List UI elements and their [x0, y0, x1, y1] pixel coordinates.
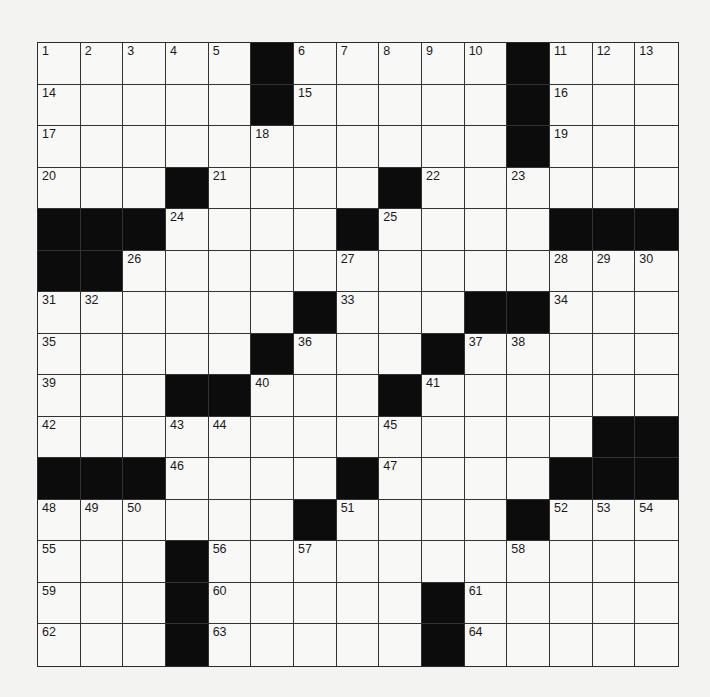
grid-cell-r0-c6[interactable]: 6	[294, 43, 337, 85]
cell-entry[interactable]	[294, 541, 336, 582]
cell-entry[interactable]	[507, 417, 549, 458]
grid-cell-r14-c11[interactable]	[507, 624, 550, 666]
grid-cell-r6-c14[interactable]	[635, 292, 678, 334]
cell-entry[interactable]	[337, 417, 379, 458]
cell-entry[interactable]	[635, 334, 678, 375]
grid-cell-r6-c0[interactable]: 31	[38, 292, 81, 334]
cell-entry[interactable]	[337, 126, 379, 167]
cell-entry[interactable]	[251, 583, 293, 624]
grid-cell-r0-c7[interactable]: 7	[337, 43, 380, 85]
grid-cell-r1-c8[interactable]	[379, 85, 422, 127]
grid-cell-r9-c2[interactable]	[123, 417, 166, 459]
cell-entry[interactable]	[465, 500, 507, 541]
cell-entry[interactable]	[123, 624, 165, 666]
cell-entry[interactable]	[635, 541, 678, 582]
grid-cell-r2-c13[interactable]	[593, 126, 636, 168]
grid-cell-r14-c6[interactable]	[294, 624, 337, 666]
grid-cell-r4-c8[interactable]: 25	[379, 209, 422, 251]
grid-cell-r1-c3[interactable]	[166, 85, 209, 127]
cell-entry[interactable]	[166, 126, 208, 167]
cell-entry[interactable]	[209, 251, 251, 292]
cell-entry[interactable]	[38, 500, 80, 541]
cell-entry[interactable]	[337, 541, 379, 582]
grid-cell-r4-c10[interactable]	[465, 209, 508, 251]
cell-entry[interactable]	[550, 168, 592, 209]
cell-entry[interactable]	[294, 583, 336, 624]
cell-entry[interactable]	[593, 375, 635, 416]
cell-entry[interactable]	[507, 334, 549, 375]
cell-entry[interactable]	[465, 583, 507, 624]
grid-cell-r3-c1[interactable]	[81, 168, 124, 210]
grid-cell-r7-c2[interactable]	[123, 334, 166, 376]
cell-entry[interactable]	[251, 458, 293, 499]
grid-cell-r3-c5[interactable]	[251, 168, 294, 210]
grid-cell-r0-c3[interactable]: 4	[166, 43, 209, 85]
grid-cell-r9-c8[interactable]: 45	[379, 417, 422, 459]
grid-cell-r11-c10[interactable]	[465, 500, 508, 542]
grid-cell-r5-c13[interactable]: 29	[593, 251, 636, 293]
cell-entry[interactable]	[422, 292, 464, 333]
cell-entry[interactable]	[123, 500, 165, 541]
grid-cell-r9-c12[interactable]	[550, 417, 593, 459]
grid-cell-r13-c7[interactable]	[337, 583, 380, 625]
grid-cell-r7-c10[interactable]: 37	[465, 334, 508, 376]
cell-entry[interactable]	[507, 541, 549, 582]
grid-cell-r3-c11[interactable]: 23	[507, 168, 550, 210]
grid-cell-r6-c4[interactable]	[209, 292, 252, 334]
cell-entry[interactable]	[465, 85, 507, 126]
cell-entry[interactable]	[38, 583, 80, 624]
cell-entry[interactable]	[38, 334, 80, 375]
cell-entry[interactable]	[507, 375, 549, 416]
grid-cell-r1-c0[interactable]: 14	[38, 85, 81, 127]
grid-cell-r5-c3[interactable]	[166, 251, 209, 293]
grid-cell-r13-c10[interactable]: 61	[465, 583, 508, 625]
cell-entry[interactable]	[209, 126, 251, 167]
grid-cell-r12-c11[interactable]: 58	[507, 541, 550, 583]
grid-cell-r2-c9[interactable]	[422, 126, 465, 168]
grid-cell-r10-c4[interactable]	[209, 458, 252, 500]
cell-entry[interactable]	[422, 375, 464, 416]
grid-cell-r12-c0[interactable]: 55	[38, 541, 81, 583]
grid-cell-r6-c3[interactable]	[166, 292, 209, 334]
grid-cell-r1-c13[interactable]	[593, 85, 636, 127]
grid-cell-r12-c13[interactable]	[593, 541, 636, 583]
grid-cell-r11-c14[interactable]: 54	[635, 500, 678, 542]
grid-cell-r12-c8[interactable]	[379, 541, 422, 583]
cell-entry[interactable]	[422, 43, 464, 84]
cell-entry[interactable]	[337, 292, 379, 333]
grid-cell-r6-c13[interactable]	[593, 292, 636, 334]
cell-entry[interactable]	[465, 251, 507, 292]
cell-entry[interactable]	[251, 126, 293, 167]
grid-cell-r7-c12[interactable]	[550, 334, 593, 376]
grid-cell-r0-c8[interactable]: 8	[379, 43, 422, 85]
grid-cell-r13-c5[interactable]	[251, 583, 294, 625]
cell-entry[interactable]	[422, 500, 464, 541]
grid-cell-r12-c4[interactable]: 56	[209, 541, 252, 583]
grid-cell-r1-c7[interactable]	[337, 85, 380, 127]
grid-cell-r14-c2[interactable]	[123, 624, 166, 666]
grid-cell-r5-c11[interactable]	[507, 251, 550, 293]
cell-entry[interactable]	[294, 43, 336, 84]
grid-cell-r11-c0[interactable]: 48	[38, 500, 81, 542]
grid-cell-r14-c1[interactable]	[81, 624, 124, 666]
grid-cell-r10-c6[interactable]	[294, 458, 337, 500]
cell-entry[interactable]	[422, 85, 464, 126]
cell-entry[interactable]	[123, 43, 165, 84]
grid-cell-r9-c3[interactable]: 43	[166, 417, 209, 459]
cell-entry[interactable]	[251, 541, 293, 582]
grid-cell-r3-c7[interactable]	[337, 168, 380, 210]
cell-entry[interactable]	[379, 500, 421, 541]
cell-entry[interactable]	[81, 168, 123, 209]
cell-entry[interactable]	[465, 624, 507, 666]
cell-entry[interactable]	[593, 583, 635, 624]
grid-cell-r6-c12[interactable]: 34	[550, 292, 593, 334]
grid-cell-r5-c4[interactable]	[209, 251, 252, 293]
grid-cell-r5-c9[interactable]	[422, 251, 465, 293]
cell-entry[interactable]	[593, 541, 635, 582]
cell-entry[interactable]	[635, 500, 678, 541]
cell-entry[interactable]	[507, 251, 549, 292]
cell-entry[interactable]	[550, 500, 592, 541]
cell-entry[interactable]	[550, 85, 592, 126]
grid-cell-r14-c10[interactable]: 64	[465, 624, 508, 666]
grid-cell-r13-c8[interactable]	[379, 583, 422, 625]
